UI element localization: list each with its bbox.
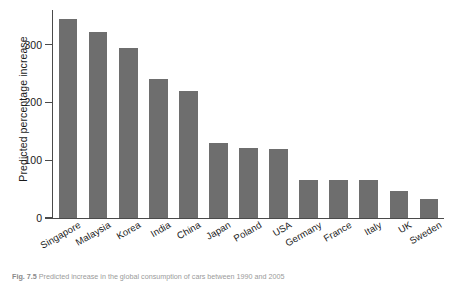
y-axis-tick <box>45 44 52 45</box>
x-axis-category-label: UK <box>396 219 413 235</box>
figure-caption-text: Predicted increase in the global consump… <box>39 272 285 281</box>
y-axis-tick <box>45 160 52 161</box>
y-axis-tick-label: 0 <box>0 212 42 224</box>
bar <box>359 180 378 218</box>
bar <box>299 180 318 218</box>
bar <box>59 19 78 218</box>
y-axis-tick <box>45 102 52 103</box>
figure-caption: Fig. 7.5 Predicted increase in the globa… <box>12 272 448 281</box>
figure-caption-number: Fig. 7.5 <box>12 272 37 281</box>
x-axis-category-label: Singapore <box>38 219 82 251</box>
x-axis-category-label: China <box>175 219 203 241</box>
bar <box>329 180 348 218</box>
bar <box>269 149 288 218</box>
x-axis-category-label: Sweden <box>407 219 443 246</box>
y-axis-tick-label: 200 <box>0 96 42 108</box>
bar <box>420 199 439 218</box>
x-axis-category-label: Korea <box>115 219 143 242</box>
y-axis-tick-label: 100 <box>0 154 42 166</box>
x-axis-category-labels: SingaporeMalaysiaKoreaIndiaChinaJapanPol… <box>53 219 444 277</box>
x-axis-category-label: Japan <box>204 219 233 242</box>
figure-bar-chart: Predicted percentage increase 0100200300… <box>0 0 452 281</box>
x-axis-category-label: Italy <box>362 219 383 238</box>
bar <box>390 191 409 218</box>
bar <box>179 91 198 218</box>
bar <box>209 143 228 218</box>
bar <box>239 148 258 218</box>
y-axis-tick-label: 300 <box>0 39 42 51</box>
x-axis-category-label: Poland <box>231 219 263 244</box>
bar <box>149 79 168 218</box>
x-axis-category-label: India <box>149 219 173 239</box>
y-axis-tick <box>45 217 52 218</box>
bar <box>89 32 108 218</box>
x-axis-category-label: France <box>321 219 353 244</box>
bar-series <box>53 10 444 218</box>
bar <box>119 48 138 218</box>
